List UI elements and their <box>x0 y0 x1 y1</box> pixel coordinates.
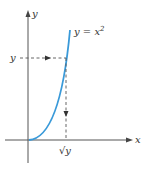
horizontal-arrow-icon <box>45 56 51 61</box>
y-axis-label: y <box>31 8 38 19</box>
y-axis-arrow-icon <box>26 10 31 17</box>
x-axis-label: x <box>135 134 141 145</box>
parabola-curve <box>29 30 70 140</box>
sqrt-diagram: y x y = x2 y √y <box>0 0 150 170</box>
vertical-arrow-icon <box>64 111 69 117</box>
y-value-label: y <box>9 52 16 63</box>
curve-label: y = x2 <box>73 25 105 37</box>
sqrt-y-label: √y <box>59 145 71 156</box>
x-axis-arrow-icon <box>126 138 133 143</box>
